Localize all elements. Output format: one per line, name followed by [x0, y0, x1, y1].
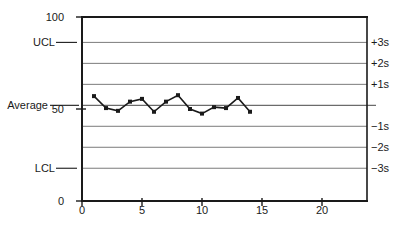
x-tick-label: 20: [316, 204, 328, 216]
data-point-marker: [200, 112, 204, 116]
sigma-label: +3s: [371, 36, 389, 48]
data-point-marker: [140, 97, 144, 101]
data-point-marker: [188, 107, 192, 111]
y-tick-label: 50: [52, 103, 64, 115]
data-point-marker: [248, 110, 252, 114]
sigma-label: +2s: [371, 57, 389, 69]
lcl-label: LCL: [35, 162, 55, 174]
data-point-marker: [236, 96, 240, 100]
x-tick-label: 5: [139, 204, 145, 216]
data-point-marker: [116, 109, 120, 113]
y-tick-label: 0: [58, 195, 64, 207]
data-point-marker: [128, 100, 132, 104]
data-point-marker: [212, 105, 216, 109]
x-tick-label: 0: [79, 204, 85, 216]
sigma-label: −1s: [371, 120, 389, 132]
x-tick-label: 10: [196, 204, 208, 216]
sigma-label: −2s: [371, 141, 389, 153]
data-point-marker: [104, 106, 108, 110]
data-point-marker: [176, 93, 180, 97]
control-chart: UCL Average LCL +3s+2s+1s−1s−2s−3s100500…: [0, 0, 411, 239]
ucl-label: UCL: [33, 36, 55, 48]
data-point-marker: [164, 100, 168, 104]
sigma-label: +1s: [371, 78, 389, 90]
data-point-marker: [224, 106, 228, 110]
x-tick-label: 15: [256, 204, 268, 216]
sigma-label: −3s: [371, 162, 389, 174]
data-point-marker: [152, 110, 156, 114]
average-label: Average: [7, 99, 48, 111]
y-tick-label: 100: [46, 11, 64, 23]
data-point-marker: [92, 94, 96, 98]
